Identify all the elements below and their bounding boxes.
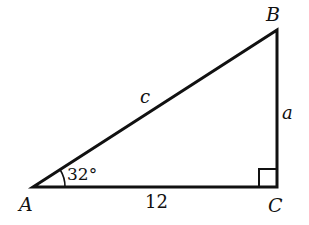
vertex-label-b: B [266, 5, 280, 24]
vertex-label-a: A [19, 195, 33, 214]
side-label-c: c [140, 88, 150, 106]
side-label-a: a [282, 104, 293, 122]
triangle-diagram: A B C c a 12 32° [0, 0, 309, 225]
angle-label: 32° [67, 166, 97, 183]
vertex-label-c: C [268, 196, 283, 215]
angle-arc [60, 170, 65, 188]
side-label-base: 12 [145, 193, 168, 211]
right-angle-marker [259, 169, 277, 187]
